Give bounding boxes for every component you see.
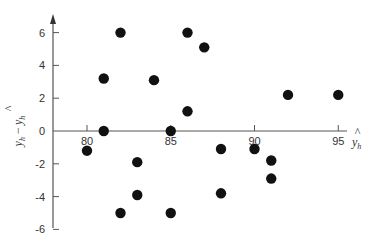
x-tick-label: 85 [165,135,177,147]
ylabel-hat: ^ [2,106,16,112]
ylabel-right-sub: h [18,116,27,120]
data-point [115,208,125,218]
data-point [199,42,209,52]
y-tick-label: 4 [39,59,45,71]
data-point [182,106,192,116]
x-axis-ticks: 80859095 [81,125,345,147]
svg-text:yh: yh [351,135,361,151]
y-tick-label: 2 [39,92,45,104]
data-point [82,145,92,155]
axes [50,14,347,228]
y-axis-arrow-icon [50,14,56,24]
data-point [132,157,142,167]
x-tick-label: 80 [81,135,93,147]
y-tick-label: 0 [39,125,45,137]
y-axis-label: yh−yh ^ [2,106,27,148]
data-point [283,90,293,100]
data-point [266,173,276,183]
data-point [182,27,192,37]
y-tick-label: -2 [35,158,45,170]
data-point [99,73,109,83]
data-point [166,126,176,136]
y-tick-label: -6 [35,223,45,235]
y-tick-label: -4 [35,191,45,203]
svg-text:yh−yh: yh−yh [11,116,27,148]
data-point [132,190,142,200]
x-tick-label: 95 [332,135,344,147]
ylabel-left-sub: h [18,137,27,141]
data-point [216,188,226,198]
scatter-chart: 6420-2-4-6 80859095 yh−yh ^ ^ yh [0,0,375,246]
data-point [333,90,343,100]
data-point [216,144,226,154]
xlabel-sub: h [357,142,361,151]
data-points [82,27,344,218]
data-point [266,155,276,165]
data-point [99,126,109,136]
y-tick-label: 6 [39,27,45,39]
ylabel-minus: − [11,127,25,135]
data-point [249,144,259,154]
x-axis-label: ^ yh [351,125,361,151]
data-point [149,75,159,85]
data-point [166,208,176,218]
data-point [115,27,125,37]
